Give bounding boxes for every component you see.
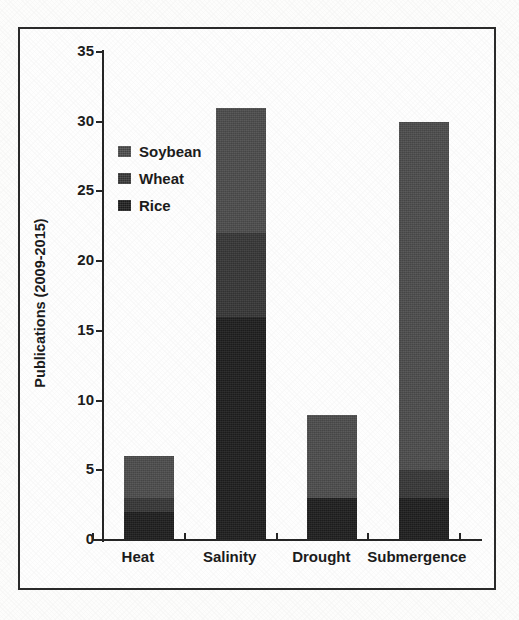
y-axis-tick-label: 25 <box>60 181 94 198</box>
bar-group <box>124 52 174 540</box>
scanned-page: Publications (2009-2015) 05101520253035 … <box>0 0 519 620</box>
y-axis-tick-mark <box>96 539 103 541</box>
x-axis-label-drought: Drought <box>276 548 368 565</box>
y-axis-tick-mark <box>96 260 103 262</box>
legend-item-wheat[interactable]: Wheat <box>118 165 238 192</box>
bar-segment <box>307 415 357 499</box>
bar-segment <box>399 498 449 540</box>
legend-swatch-icon <box>118 200 131 211</box>
legend-label: Wheat <box>139 170 184 187</box>
y-axis-tick-label: 10 <box>60 391 94 408</box>
y-axis-tick-mark <box>96 121 103 123</box>
x-axis-label-submergence: Submergence <box>367 548 459 565</box>
legend-label: Soybean <box>139 143 202 160</box>
bar-segment <box>399 470 449 498</box>
chart-legend: SoybeanWheatRice <box>118 138 238 219</box>
bar-segment <box>399 122 449 471</box>
bar-segment <box>124 456 174 498</box>
y-axis-tick-mark <box>96 330 103 332</box>
legend-item-soybean[interactable]: Soybean <box>118 138 238 165</box>
legend-swatch-icon <box>118 173 131 184</box>
y-axis-title: Publications (2009-2015) <box>32 163 48 443</box>
y-axis-tick-label: 15 <box>60 321 94 338</box>
x-axis-label-heat: Heat <box>92 548 184 565</box>
y-axis-tick-labels: 05101520253035 <box>54 0 94 620</box>
x-axis-label-salinity: Salinity <box>184 548 276 565</box>
plot-area <box>103 52 470 540</box>
x-axis-category-labels: HeatSalinityDroughtSubmergence <box>92 548 484 576</box>
legend-label: Rice <box>139 197 171 214</box>
bar-segment <box>307 498 357 540</box>
bar-segment <box>216 233 266 317</box>
bar-group <box>307 52 357 540</box>
bar-segment <box>216 317 266 540</box>
y-axis-tick-label: 35 <box>60 42 94 59</box>
y-axis-tick-mark <box>96 51 103 53</box>
y-axis-tick-label: 20 <box>60 251 94 268</box>
legend-swatch-icon <box>118 146 131 157</box>
bar-group <box>399 52 449 540</box>
y-axis-tick-mark <box>96 400 103 402</box>
legend-item-rice[interactable]: Rice <box>118 192 238 219</box>
y-axis-tick-label: 5 <box>60 460 94 477</box>
y-axis-tick-label: 30 <box>60 112 94 129</box>
y-axis-tick-mark <box>96 190 103 192</box>
bar-segment <box>124 498 174 512</box>
y-axis-tick-mark <box>96 469 103 471</box>
bar-segment <box>124 512 174 540</box>
x-axis-tick-mark <box>92 533 94 541</box>
y-axis-tick-label: 0 <box>60 530 94 547</box>
bar-group <box>216 52 266 540</box>
